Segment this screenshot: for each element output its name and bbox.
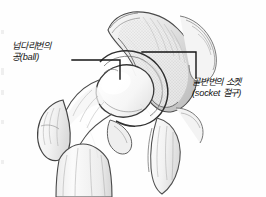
label-acetabulum-line1: 골반번의 소켓	[192, 77, 241, 88]
ischium-pubis-group	[148, 108, 203, 194]
label-acetabulum: 골반번의 소켓 (socket 절구)	[192, 77, 241, 99]
label-femoral-head: 넙다리번의 공(ball)	[12, 41, 51, 63]
femoral-shaft-group	[56, 144, 112, 197]
label-acetabulum-line2: (socket 절구)	[192, 88, 241, 99]
label-femoral-head-line1: 넙다리번의	[12, 41, 51, 52]
hip-joint-figure: 넙다리번의 공(ball) 골반번의 소켓 (socket 절구)	[0, 0, 266, 197]
label-femoral-head-line2: 공(ball)	[12, 52, 51, 63]
